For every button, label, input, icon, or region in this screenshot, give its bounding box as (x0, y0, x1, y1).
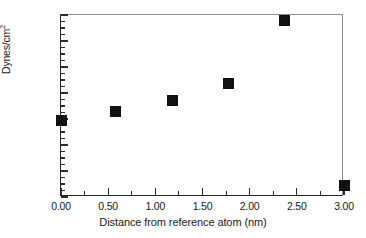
y-tick-minor (61, 112, 65, 113)
x-axis-title: Distance from reference atom (nm) (0, 216, 366, 228)
y-tick-minor (61, 73, 65, 74)
x-tick-minor (84, 191, 85, 195)
data-point (223, 78, 234, 89)
y-tick-major (61, 144, 68, 145)
x-tick-major (296, 188, 297, 195)
y-tick-major (61, 40, 68, 41)
x-tick-major (249, 188, 250, 195)
x-tick-major (155, 188, 156, 195)
y-tick-minor (61, 157, 65, 158)
y-tick-minor (61, 86, 65, 87)
data-point (56, 115, 67, 126)
y-tick-minor (61, 99, 65, 100)
x-tick-label: 3.00 (314, 201, 366, 212)
y-tick-minor (61, 79, 65, 80)
x-tick-minor (178, 191, 179, 195)
y-tick-minor (61, 131, 65, 132)
y-tick-minor (61, 151, 65, 152)
data-point (110, 106, 121, 117)
y-tick-minor (61, 164, 65, 165)
y-tick-minor (61, 138, 65, 139)
x-tick-major (108, 188, 109, 195)
y-tick-minor (61, 53, 65, 54)
x-tick-minor (273, 191, 274, 195)
x-tick-minor (226, 191, 227, 195)
x-tick-major (60, 188, 61, 195)
y-axis-title-exponent: 2 (0, 25, 7, 29)
y-tick-minor (61, 21, 65, 22)
plot-area: 300040005000600070008000900010000 0.000.… (60, 14, 343, 196)
y-tick-minor (61, 105, 65, 106)
y-tick-minor (61, 27, 65, 28)
y-tick-major (61, 14, 68, 15)
y-tick-minor (61, 47, 65, 48)
y-tick-minor (61, 60, 65, 61)
x-tick-minor (320, 191, 321, 195)
y-tick-major (61, 92, 68, 93)
y-axis-title: Dynes/cm2 (0, 25, 12, 74)
x-tick-minor (131, 191, 132, 195)
x-tick-major (202, 188, 203, 195)
y-tick-major (61, 66, 68, 67)
y-tick-major (61, 170, 68, 171)
chart-figure: Dynes/cm2 300040005000600070008000900010… (0, 0, 366, 238)
y-tick-minor (61, 34, 65, 35)
data-point (279, 15, 290, 26)
y-tick-minor (61, 177, 65, 178)
y-tick-major (61, 196, 68, 197)
data-point (167, 95, 178, 106)
y-axis-title-base: Dynes/cm (0, 29, 12, 74)
y-tick-minor (61, 183, 65, 184)
data-point (339, 180, 350, 191)
